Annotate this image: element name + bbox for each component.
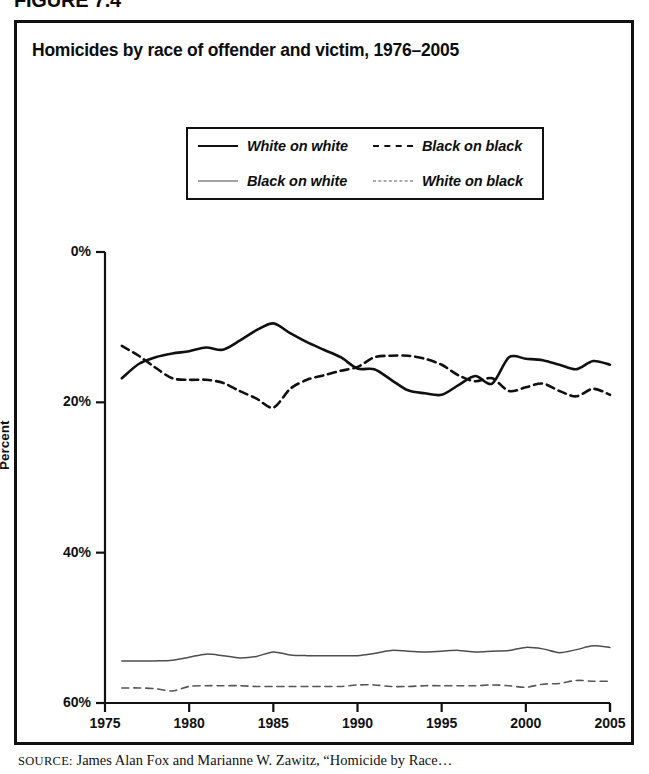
legend-item-white-on-white: White on white xyxy=(198,129,373,164)
line-solid-thin-icon xyxy=(198,175,238,187)
legend-item-black-on-black: Black on black xyxy=(373,129,556,164)
chart-title: Homicides by race of offender and victim… xyxy=(32,40,459,61)
legend-item-black-on-white: Black on white xyxy=(198,164,373,199)
source-prefix: SOURCE: xyxy=(18,754,73,768)
y-axis-tick-label: 60% xyxy=(39,694,91,710)
figure-number-label: FIGURE 7.4 xyxy=(14,0,121,12)
legend-item-white-on-black: White on black xyxy=(373,164,556,199)
line-dashed-thin-icon xyxy=(373,175,413,187)
y-axis-tick-label: 40% xyxy=(39,544,91,560)
x-axis-tick-label: 2000 xyxy=(498,715,554,731)
y-axis-title: Percent xyxy=(0,420,12,470)
x-axis-tick-label: 1975 xyxy=(77,715,133,731)
x-axis-tick-label: 1985 xyxy=(245,715,301,731)
y-axis-tick-label: 20% xyxy=(39,393,91,409)
legend-label: White on black xyxy=(422,173,523,189)
line-dashed-thick-icon xyxy=(373,140,413,152)
chart-legend: White on white Black on black Black on w… xyxy=(186,127,544,200)
source-text: James Alan Fox and Marianne W. Zawitz, “… xyxy=(77,752,453,768)
x-axis-tick-label: 2005 xyxy=(582,715,638,731)
x-axis-tick-label: 1990 xyxy=(330,715,386,731)
line-solid-thick-icon xyxy=(198,140,238,152)
y-axis-tick-label: 0% xyxy=(39,243,91,259)
source-note: SOURCE: James Alan Fox and Marianne W. Z… xyxy=(18,752,643,769)
legend-label: Black on black xyxy=(422,138,522,154)
x-axis-tick-label: 1980 xyxy=(161,715,217,731)
legend-label: Black on white xyxy=(247,173,347,189)
x-axis-tick-label: 1995 xyxy=(414,715,470,731)
legend-label: White on white xyxy=(247,138,348,154)
figure-page: FIGURE 7.4 Homicides by race of offender… xyxy=(0,0,649,774)
